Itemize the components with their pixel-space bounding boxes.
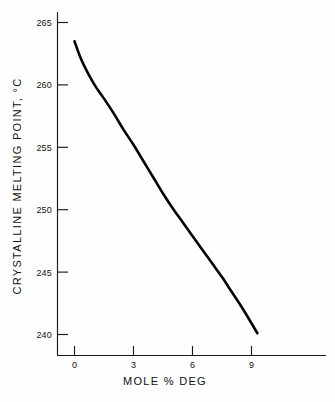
x-axis-title: MOLE % DEG [123, 375, 207, 387]
chart-figure: 265 260 255 250 245 240 0 3 6 9 MOLE % D… [0, 0, 335, 402]
x-tick-label-3: 3 [131, 360, 136, 370]
melting-point-curve [75, 41, 258, 333]
y-tick-label-255: 255 [36, 143, 52, 153]
x-tick-label-9: 9 [249, 360, 254, 370]
y-tick-label-245: 245 [36, 268, 52, 278]
y-axis-ticks [58, 23, 68, 335]
chart-page: 265 260 255 250 245 240 0 3 6 9 MOLE % D… [0, 0, 335, 402]
y-axis-tick-labels: 265 260 255 250 245 240 [36, 18, 52, 340]
y-tick-label-265: 265 [36, 18, 52, 28]
x-axis-ticks [75, 346, 252, 355]
x-axis-tick-labels: 0 3 6 9 [72, 360, 254, 370]
y-tick-label-260: 260 [36, 80, 52, 90]
y-tick-label-250: 250 [36, 205, 52, 215]
x-tick-label-0: 0 [72, 360, 77, 370]
y-tick-label-240: 240 [36, 330, 52, 340]
x-tick-label-6: 6 [190, 360, 195, 370]
y-axis-title: CRYSTALLINE MELTING POINT, °C [11, 78, 23, 295]
